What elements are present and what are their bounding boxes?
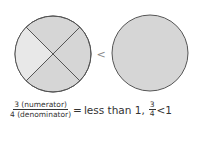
- result-text: less than 1,: [84, 104, 145, 116]
- denominator-label: 4 (denominator): [10, 110, 71, 119]
- compare-symbol: <: [157, 104, 166, 116]
- less-than-symbol: <: [96, 48, 105, 61]
- compare-value: 1: [165, 104, 172, 116]
- labeled-fraction: 3 (numerator) 4 (denominator): [10, 100, 71, 119]
- numerator-label: 3 (numerator): [13, 100, 68, 110]
- fraction-equation: 3 (numerator) 4 (denominator) = less tha…: [10, 100, 172, 119]
- equals-sign: =: [73, 104, 82, 116]
- fraction-diagram: <: [0, 0, 203, 100]
- left-circle-quarters: [15, 16, 91, 92]
- frac-denominator: 4: [150, 110, 155, 118]
- three-quarters-fraction: 3 4: [149, 101, 156, 118]
- right-circle-whole: [112, 15, 188, 91]
